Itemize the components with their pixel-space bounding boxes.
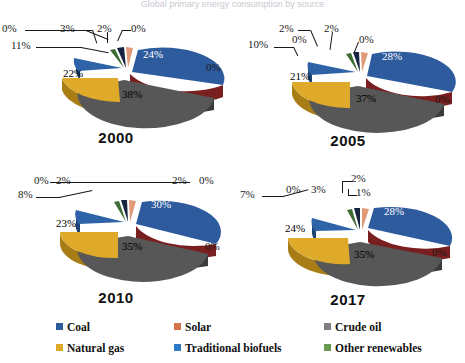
legend-label-traditional-biofuels: Traditional biofuels <box>185 342 282 354</box>
leader-line-extra-a-2010 <box>50 182 190 183</box>
leader-line-traditional-biofuels-2010 <box>36 197 60 198</box>
legend-label-solar: Solar <box>185 321 211 333</box>
legend-label-coal: Coal <box>67 321 90 333</box>
slice-label-extra-c-2017: 1% <box>356 186 371 198</box>
slice-label-coal-2017: 28% <box>384 205 404 217</box>
pie-chart-2010: 30% 35% 23% 0% 2% 8% 2% 0% 0% 2010 <box>0 160 232 320</box>
leader-line-extra-b-2000 <box>107 32 108 43</box>
slice-label-extra-b-2010: 2% <box>172 174 187 186</box>
leader-line-extra-a-2005 <box>298 30 310 31</box>
slice-label-solar-2005: 0% <box>435 93 450 105</box>
leader-line-extra-c-2017 <box>348 195 357 196</box>
legend-item-solar[interactable]: Solar <box>174 321 324 333</box>
legend-swatch-solar-icon <box>174 323 181 330</box>
legend-item-crude-oil[interactable]: Crude oil <box>324 321 434 333</box>
slice-label-traditional-biofuels-2017: 7% <box>240 188 255 200</box>
slice-label-traditional-biofuels-2005: 10% <box>248 38 268 50</box>
slice-label-other-renewables-2017: 0% <box>286 183 301 195</box>
legend-label-natural-gas: Natural gas <box>67 342 124 354</box>
slice-label-crude-oil-2017: 35% <box>354 248 374 260</box>
pie-2017-graphic <box>252 184 457 296</box>
slice-label-extra-c-2005: 0% <box>359 33 374 45</box>
legend-item-traditional-biofuels[interactable]: Traditional biofuels <box>174 342 324 354</box>
leader-line-extra-c-2017-b <box>348 189 349 196</box>
chart-year-2017: 2017 <box>232 291 464 308</box>
pie-2010-graphic <box>26 182 231 292</box>
legend-swatch-traditional-biofuels-icon <box>174 344 181 351</box>
figure-canvas: Global primary energy consumption by sou… <box>0 0 465 363</box>
slice-label-other-renewables-2010: 0% <box>34 174 49 186</box>
leader-line-traditional-biofuels-2005 <box>274 47 294 48</box>
leader-line-extra-b-2017-b <box>342 181 343 193</box>
chart-year-2010: 2010 <box>0 289 232 306</box>
leader-line-traditional-biofuels-2000 <box>36 47 82 48</box>
slice-label-other-renewables-2000: 0% <box>2 22 17 34</box>
slice-label-other-renewables-2005: 0% <box>292 33 307 45</box>
slice-label-natural-gas-2005: 21% <box>290 70 310 82</box>
slice-label-traditional-biofuels-2010: 8% <box>18 188 33 200</box>
slice-label-natural-gas-2010: 23% <box>56 217 76 229</box>
slice-label-coal-2010: 30% <box>151 198 171 210</box>
leader-line-other-renewables-2000 <box>25 30 87 31</box>
legend-item-natural-gas[interactable]: Natural gas <box>56 342 174 354</box>
legend-swatch-coal-icon <box>56 323 63 330</box>
legend-swatch-crude-oil-icon <box>324 323 331 330</box>
leader-line-traditional-biofuels-2017 <box>262 196 284 197</box>
slice-label-extra-a-2010: 2% <box>56 174 71 186</box>
slice-label-solar-2017: 0% <box>432 246 447 258</box>
chart-year-2005: 2005 <box>232 132 464 149</box>
slice-label-solar-2010: 0% <box>205 240 220 252</box>
slice-label-traditional-biofuels-2000: 11% <box>11 39 31 51</box>
figure-title-cropped: Global primary energy consumption by sou… <box>0 0 465 9</box>
slice-label-extra-c-2000: 0% <box>131 22 146 34</box>
slice-label-coal-2005: 28% <box>382 50 402 62</box>
slice-label-crude-oil-2000: 38% <box>122 88 142 100</box>
chart-legend: Coal Solar Crude oil Natural gas Traditi… <box>56 316 426 358</box>
slice-label-extra-a-2000: 3% <box>60 22 75 34</box>
leader-line-extra-c-2000 <box>122 30 131 31</box>
pie-chart-2000: 24% 38% 22% 0% 11% 3% 2% 0% 0% 2000 <box>0 10 232 160</box>
slice-label-extra-c-2010: 0% <box>199 174 214 186</box>
legend-label-other-renewables: Other renewables <box>335 342 422 354</box>
slice-label-solar-2000: 0% <box>206 61 221 73</box>
legend-swatch-other-renewables-icon <box>324 344 331 351</box>
pie-chart-2005: 28% 37% 21% 2% 2% 10% 0% 0% 0% 2005 <box>232 10 464 160</box>
pie-chart-2017: 28% 35% 24% 7% 0% 3% 2% 1% 0% 2017 <box>232 160 464 320</box>
slice-label-coal-2000: 24% <box>143 48 163 60</box>
pie-2000-graphic <box>18 28 228 136</box>
legend-item-coal[interactable]: Coal <box>56 321 174 333</box>
slice-label-extra-b-2000: 2% <box>97 22 112 34</box>
slice-label-natural-gas-2017: 24% <box>285 222 305 234</box>
legend-swatch-natural-gas-icon <box>56 344 63 351</box>
legend-item-other-renewables[interactable]: Other renewables <box>324 342 434 354</box>
slice-label-extra-b-2017: 2% <box>351 172 366 184</box>
slice-label-crude-oil-2005: 37% <box>356 92 376 104</box>
slice-label-extra-a-2017: 3% <box>311 183 326 195</box>
leader-line-extra-b-2017 <box>342 181 352 182</box>
legend-label-crude-oil: Crude oil <box>335 321 381 333</box>
chart-year-2000: 2000 <box>0 129 232 146</box>
slice-label-natural-gas-2000: 22% <box>63 67 83 79</box>
leader-line-extra-a-2000 <box>79 30 92 31</box>
slice-label-crude-oil-2010: 35% <box>122 240 142 252</box>
